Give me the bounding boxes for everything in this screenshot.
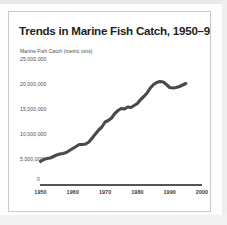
chart-figure: Trends in Marine Fish Catch, 1950–95 Mar… xyxy=(8,11,211,212)
page-edge-bottom xyxy=(0,215,227,225)
page: Trends in Marine Fish Catch, 1950–95 Mar… xyxy=(0,0,227,225)
page-edge-top xyxy=(0,0,227,4)
data-series-line xyxy=(9,12,211,212)
page-edge-right xyxy=(222,0,227,225)
plot-area: 25,000,00020,000,00015,000,00010,000,000… xyxy=(9,12,211,212)
